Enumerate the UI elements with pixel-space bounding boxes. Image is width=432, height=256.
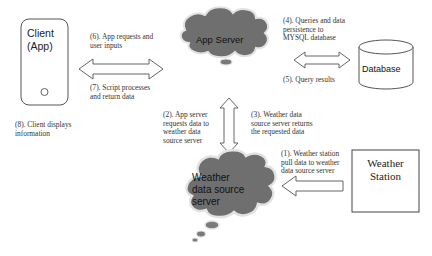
step-6-label: (6). App requests and user inputs — [90, 33, 153, 50]
step-6-line2: user inputs — [90, 42, 153, 51]
weather-station-line2: Station — [352, 170, 419, 183]
step-5-line1: (5). Query results — [283, 76, 335, 85]
app-server-label: App Server — [196, 34, 244, 45]
arrow-left-station-to-source-icon — [282, 176, 343, 196]
step-4-line3: MYSQL database — [283, 34, 345, 43]
step-2-line4: source server — [163, 137, 209, 146]
weather-station-line1: Weather — [352, 157, 419, 170]
client-label-line1: Client — [27, 27, 54, 40]
client-label: Client (App) — [27, 27, 54, 53]
double-arrow-vertical-icon — [220, 98, 238, 153]
client-label-line2: (App) — [27, 40, 54, 53]
step-3-label: (3). Weather data source server returns … — [251, 111, 313, 137]
weather-source-line2: data source — [192, 184, 244, 196]
weather-station-label: Weather Station — [352, 157, 419, 183]
step-3-line3: the requested data — [251, 128, 313, 137]
double-arrow-appserver-database-icon — [294, 52, 350, 68]
step-2-label: (2). App server requests data to weather… — [163, 111, 209, 145]
phone-home-button-icon — [41, 89, 48, 96]
weather-source-line1: Weather — [192, 172, 244, 184]
step-1-line3: data source server — [281, 167, 340, 176]
step-7-label: (7). Script processes and return data — [90, 84, 150, 101]
weather-source-line3: server — [192, 196, 244, 208]
step-1-label: (1). Weather station pull data to weathe… — [281, 150, 340, 176]
weather-source-label: Weather data source server — [192, 172, 244, 208]
step-5-label: (5). Query results — [283, 76, 335, 85]
step-8-label: (8). Client displays information — [15, 121, 71, 138]
double-arrow-client-appserver-icon — [79, 59, 163, 79]
step-4-label: (4). Queries and data persistence to MYS… — [283, 17, 345, 43]
step-7-line2: and return data — [90, 93, 150, 102]
step-8-line2: information — [15, 130, 71, 139]
database-label: Database — [362, 64, 401, 74]
